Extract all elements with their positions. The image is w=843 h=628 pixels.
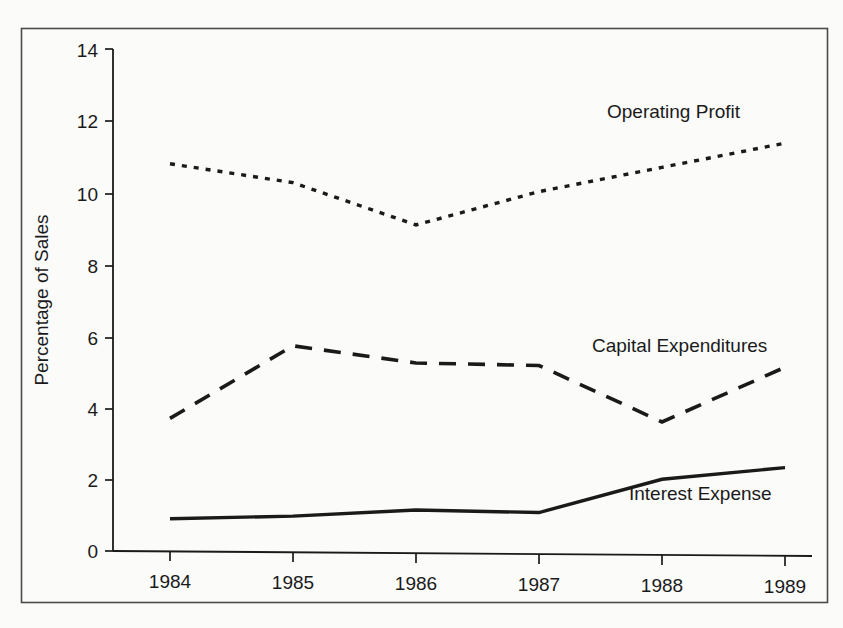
x-axis-line — [113, 551, 812, 556]
x-tick-label-1986: 1986 — [395, 573, 437, 594]
y-tick-label-10: 10 — [77, 184, 98, 205]
y-axis-ticks — [105, 49, 113, 551]
x-tick-label-1989: 1989 — [764, 576, 806, 597]
series-label-capital-expenditures: Capital Expenditures — [592, 335, 767, 356]
y-tick-label-4: 4 — [87, 399, 98, 420]
series-line-capital-expenditures — [170, 346, 785, 422]
x-tick-label-1984: 1984 — [149, 571, 192, 592]
y-tick-label-8: 8 — [87, 256, 98, 277]
y-tick-label-6: 6 — [87, 328, 98, 349]
series-label-operating-profit: Operating Profit — [607, 101, 741, 122]
line-chart: 0 2 4 6 8 10 12 14 Percentage of Sales 1… — [0, 0, 843, 628]
series-line-operating-profit — [170, 143, 785, 225]
y-tick-label-12: 12 — [77, 111, 98, 132]
x-tick-label-1988: 1988 — [641, 575, 683, 596]
chart-figure: 0 2 4 6 8 10 12 14 Percentage of Sales 1… — [0, 0, 843, 628]
y-tick-label-0: 0 — [87, 541, 98, 562]
x-tick-label-1987: 1987 — [518, 574, 560, 595]
y-tick-label-2: 2 — [87, 470, 98, 491]
y-axis-title: Percentage of Sales — [31, 214, 52, 385]
y-tick-label-14: 14 — [77, 40, 99, 61]
series-label-interest-expense: Interest Expense — [629, 483, 772, 504]
x-tick-label-1985: 1985 — [272, 572, 314, 593]
